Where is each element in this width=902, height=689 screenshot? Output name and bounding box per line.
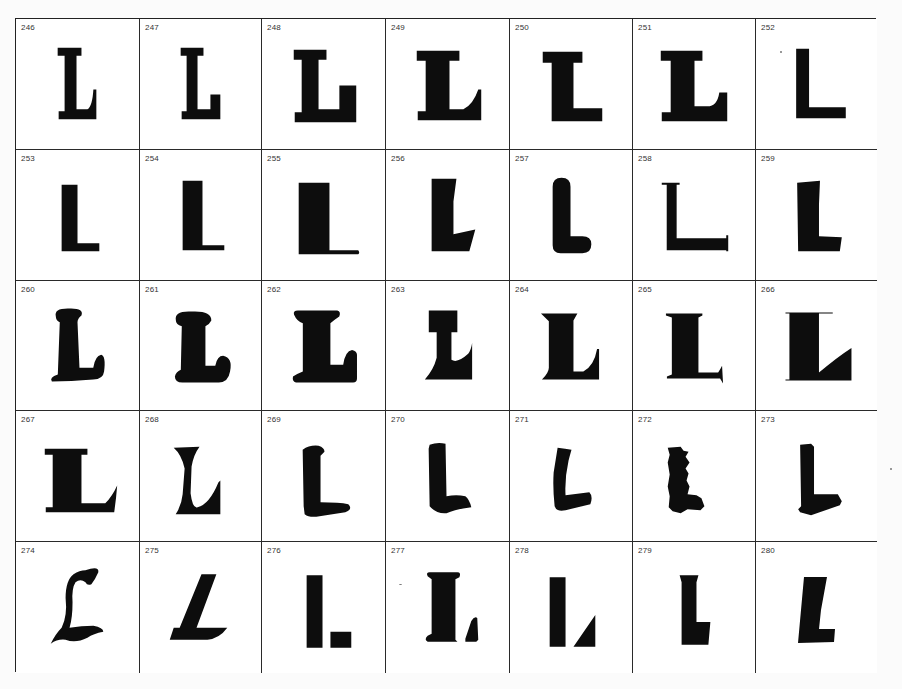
letter-l-glyph-icon [386,150,509,280]
letter-l-glyph-icon [140,19,261,149]
specimen-cell: 256 [386,150,510,281]
specimen-cell: 259 [756,150,877,281]
specimen-cell: 270 [386,411,510,542]
specimen-cell: 265 [633,281,756,411]
letter-l-glyph-icon [16,150,139,280]
letter-l-glyph-icon [16,411,139,541]
letter-l-glyph-icon [386,542,509,673]
letter-l-glyph-icon [262,411,385,541]
letter-l-glyph-icon [510,19,632,149]
specimen-cell: 251 [633,19,756,150]
letter-l-glyph-icon [510,542,632,673]
letter-l-glyph-icon [756,542,877,673]
letter-l-glyph-icon [386,281,509,410]
specimen-cell: 277 [386,542,510,673]
letter-l-glyph-icon [386,19,509,149]
letter-l-glyph-icon [756,150,877,280]
specimen-cell: 249 [386,19,510,150]
letter-l-glyph-icon [262,281,385,410]
specimen-cell: 250 [510,19,633,150]
specimen-cell: 269 [262,411,386,542]
letter-l-glyph-icon [633,19,755,149]
specimen-grid: 246 247 248 249 250 [16,19,875,671]
specimen-cell: 276 [262,542,386,673]
letter-l-glyph-icon [140,411,261,541]
letter-l-glyph-icon [633,150,755,280]
specimen-cell: 252 [756,19,877,150]
specimen-cell: 248 [262,19,386,150]
letter-l-glyph-icon [756,411,877,541]
specimen-cell: 273 [756,411,877,542]
specimen-cell: 257 [510,150,633,281]
letter-l-glyph-icon [16,281,139,410]
specimen-cell: 280 [756,542,877,673]
specimen-sheet: 246 247 248 249 250 [15,18,876,672]
specimen-cell: 271 [510,411,633,542]
specimen-cell: 274 [16,542,140,673]
specimen-cell: 253 [16,150,140,281]
specimen-cell: 279 [633,542,756,673]
letter-l-glyph-icon [140,281,261,410]
specimen-cell: 266 [756,281,877,411]
specimen-cell: 260 [16,281,140,411]
letter-l-glyph-icon [16,19,139,149]
letter-l-glyph-icon [262,542,385,673]
specimen-cell: 246 [16,19,140,150]
specimen-cell: 262 [262,281,386,411]
specimen-cell: 268 [140,411,262,542]
specimen-cell: 247 [140,19,262,150]
letter-l-glyph-icon [16,542,139,673]
letter-l-glyph-icon [510,281,632,410]
specimen-cell: 275 [140,542,262,673]
specimen-cell: 263 [386,281,510,411]
letter-l-glyph-icon [262,150,385,280]
specimen-cell: 261 [140,281,262,411]
letter-l-glyph-icon [386,411,509,541]
specimen-cell: 254 [140,150,262,281]
letter-l-glyph-icon [140,542,261,673]
ink-speck [890,468,892,470]
letter-l-glyph-icon [262,19,385,149]
specimen-cell: 272 [633,411,756,542]
letter-l-glyph-icon [510,150,632,280]
letter-l-glyph-icon [633,281,755,410]
specimen-cell: 264 [510,281,633,411]
letter-l-glyph-icon [756,19,877,149]
letter-l-glyph-icon [756,281,877,410]
specimen-cell: 255 [262,150,386,281]
specimen-cell: 278 [510,542,633,673]
specimen-cell: 258 [633,150,756,281]
letter-l-glyph-icon [140,150,261,280]
letter-l-glyph-icon [633,542,755,673]
letter-l-glyph-icon [510,411,632,541]
letter-l-glyph-icon [633,411,755,541]
specimen-cell: 267 [16,411,140,542]
